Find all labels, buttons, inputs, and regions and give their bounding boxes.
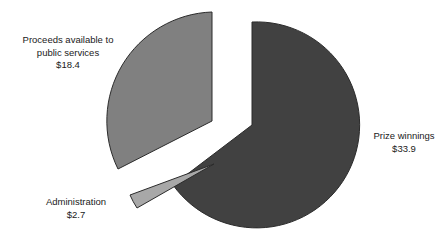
slice-label-proceeds-line1: Proceeds available to	[8, 34, 128, 47]
pie-chart-figure: Proceeds available to public services $1…	[0, 0, 448, 248]
slice-label-proceeds: Proceeds available to public services $1…	[8, 34, 128, 72]
slice-label-prize-line1: Prize winnings	[362, 130, 446, 143]
slice-label-admin-line1: Administration	[28, 196, 124, 209]
slice-label-administration: Administration $2.7	[28, 196, 124, 221]
slice-label-proceeds-line2: public services	[8, 47, 128, 60]
slice-label-proceeds-value: $18.4	[8, 59, 128, 72]
slice-label-prize-value: $33.9	[362, 143, 446, 156]
slice-label-admin-value: $2.7	[28, 209, 124, 222]
slice-label-prize-winnings: Prize winnings $33.9	[362, 130, 446, 155]
